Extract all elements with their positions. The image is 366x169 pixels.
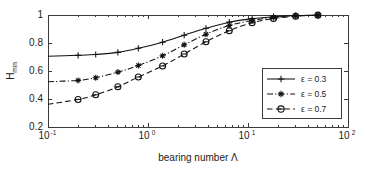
- data-point-marker-asterisk: [93, 75, 99, 81]
- data-point-marker-asterisk: [278, 91, 284, 97]
- svg-text:10: 10: [138, 130, 150, 141]
- y-tick-label: 0.6: [29, 65, 43, 76]
- data-point-marker-asterisk: [203, 31, 209, 37]
- svg-text:10: 10: [338, 130, 350, 141]
- svg-text:1: 1: [252, 129, 256, 136]
- data-point-marker-asterisk: [75, 77, 81, 83]
- data-point-marker-asterisk: [160, 53, 166, 59]
- data-point-marker-asterisk: [181, 42, 187, 48]
- svg-text:-1: -1: [51, 129, 57, 136]
- svg-text:10: 10: [238, 130, 250, 141]
- chart-figure: 10-1100101102 0.20.40.60.81 ε = 0.3ε = 0…: [0, 0, 366, 169]
- legend-label: ε = 0.5: [301, 89, 327, 99]
- chart-legend: ε = 0.3ε = 0.5ε = 0.7: [262, 68, 341, 118]
- svg-text:2: 2: [352, 129, 356, 136]
- line-chart-svg: 10-1100101102 0.20.40.60.81 ε = 0.3ε = 0…: [0, 0, 366, 169]
- svg-text:0: 0: [152, 129, 156, 136]
- legend-label: ε = 0.7: [301, 104, 327, 114]
- x-axis-label: bearing number Λ: [158, 152, 238, 163]
- y-tick-label: 1: [37, 9, 43, 20]
- y-tick-label: 0.4: [29, 93, 43, 104]
- data-point-marker-asterisk: [135, 63, 141, 69]
- legend-label: ε = 0.3: [301, 74, 327, 84]
- y-tick-label: 0.8: [29, 37, 43, 48]
- data-point-marker-asterisk: [115, 69, 121, 75]
- y-tick-label: 0.2: [29, 121, 43, 132]
